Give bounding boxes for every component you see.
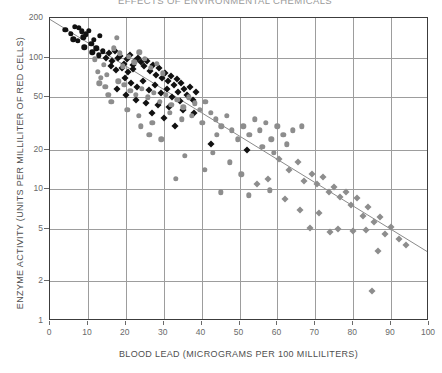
- x-tick-label: 60: [272, 327, 281, 337]
- x-tick-mark: [49, 321, 50, 325]
- y-tick-mark: [44, 228, 49, 229]
- x-tick-label: 10: [82, 327, 91, 337]
- x-tick-mark: [201, 321, 202, 325]
- x-tick-label: 70: [310, 327, 319, 337]
- y-tick-mark: [44, 149, 49, 150]
- x-tick-mark: [276, 321, 277, 325]
- x-tick-label: 90: [385, 327, 394, 337]
- x-tick-mark: [314, 321, 315, 325]
- x-tick-mark: [352, 321, 353, 325]
- x-tick-mark: [163, 321, 164, 325]
- x-axis-title: BLOOD LEAD (MICROGRAMS PER 100 MILLILITE…: [49, 349, 428, 359]
- y-tick-mark: [44, 188, 49, 189]
- plot-area: [50, 18, 427, 319]
- regression-line: [50, 18, 427, 319]
- plot-frame: [49, 17, 428, 320]
- x-tick-mark: [87, 321, 88, 325]
- y-tick-mark: [44, 280, 49, 281]
- y-axis-title: ENZYME ACTIVITY (UNITS PER MILLILITER OF…: [15, 23, 25, 323]
- x-tick-label: 20: [120, 327, 129, 337]
- x-tick-label: 100: [421, 327, 435, 337]
- x-tick-label: 0: [47, 327, 52, 337]
- x-tick-label: 80: [347, 327, 356, 337]
- x-tick-label: 50: [234, 327, 243, 337]
- x-tick-mark: [390, 321, 391, 325]
- x-tick-mark: [125, 321, 126, 325]
- x-tick-mark: [428, 321, 429, 325]
- y-tick-mark: [44, 96, 49, 97]
- x-tick-mark: [239, 321, 240, 325]
- y-tick-label: 200: [17, 12, 43, 22]
- y-tick-mark: [44, 57, 49, 58]
- x-tick-label: 40: [196, 327, 205, 337]
- figure-title: EFFECTS OF ENVIRONMENTAL CHEMICALS: [60, 0, 390, 6]
- x-tick-label: 30: [158, 327, 167, 337]
